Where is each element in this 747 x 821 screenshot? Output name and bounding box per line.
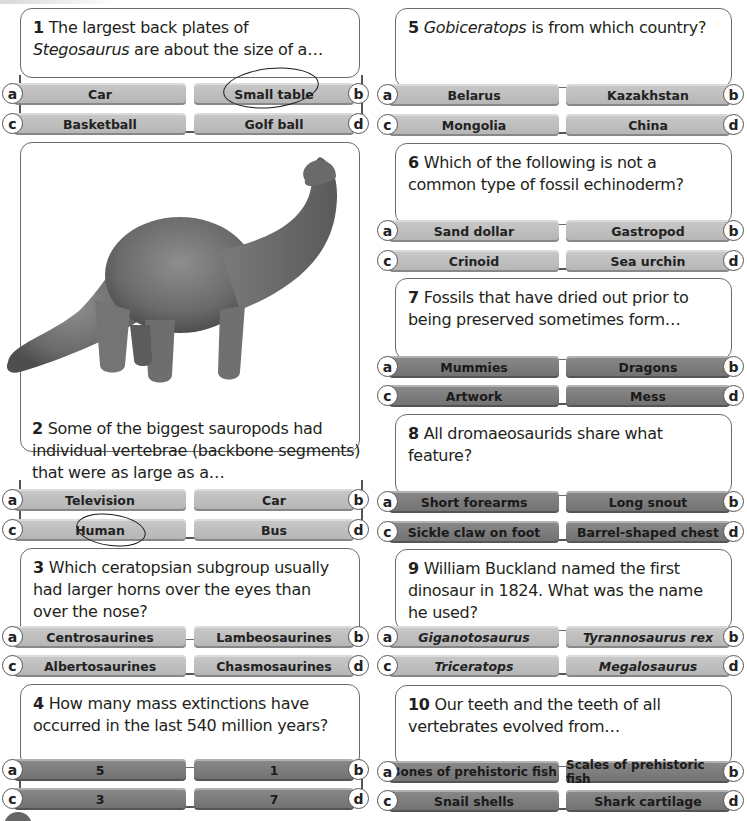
letter-a-badge: a [377, 761, 398, 782]
letter-d-badge: d [348, 113, 369, 134]
answer-d-button[interactable]: Chasmosaurines [194, 655, 354, 677]
letter-d-badge: d [723, 114, 744, 135]
answer-c-button[interactable]: Mongolia [389, 114, 559, 136]
answer-b-button[interactable]: Tyrannosaurus rex [566, 626, 730, 648]
answer-d-button[interactable]: Shark cartilage [566, 790, 730, 812]
answer-b-button[interactable]: Dragons [566, 356, 730, 378]
letter-b-badge: b [348, 759, 369, 780]
answer-b-button[interactable]: Car [194, 489, 354, 511]
letter-c-badge: c [2, 113, 23, 134]
letter-c-badge: c [377, 521, 398, 542]
letter-a-badge: a [2, 83, 23, 104]
answer-b-button[interactable]: Lambeosaurines [194, 626, 354, 648]
answer-b-button[interactable]: 1 [194, 759, 354, 781]
letter-c-badge: c [2, 655, 23, 676]
letter-a-badge: a [377, 84, 398, 105]
answer-c-button[interactable]: Human [14, 519, 186, 541]
answer-b-button[interactable]: Long snout [566, 491, 730, 513]
letter-b-badge: b [348, 83, 369, 104]
letter-c-badge: c [377, 114, 398, 135]
answer-d-button[interactable]: China [566, 114, 730, 136]
connector [186, 537, 194, 539]
letter-c-badge: c [377, 385, 398, 406]
answer-d-button[interactable]: Sea urchin [566, 250, 730, 272]
question-text-2: 2 Some of the biggest sauropods had indi… [32, 418, 362, 484]
letter-d-badge: d [723, 790, 744, 811]
sauropod-illustration [0, 150, 360, 410]
letter-a-badge: a [377, 356, 398, 377]
answer-b-button[interactable]: Scales of prehistoric fish [566, 761, 730, 783]
answer-c-button[interactable]: Crinoid [389, 250, 559, 272]
letter-b-badge: b [348, 489, 369, 510]
question-text: 9 William Buckland named the first dinos… [408, 558, 719, 624]
answer-d-button[interactable]: Mess [566, 385, 730, 407]
answer-b-button[interactable]: Kazakhstan [566, 84, 730, 106]
connector [559, 132, 566, 134]
answer-c-button[interactable]: Artwork [389, 385, 559, 407]
letter-b-badge: b [348, 626, 369, 647]
connector [559, 403, 566, 405]
answer-a-button[interactable]: Sand dollar [389, 220, 559, 242]
answer-a-button[interactable]: 5 [14, 759, 186, 781]
answer-a-button[interactable]: Centrosaurines [14, 626, 186, 648]
question-text: 6 Which of the following is not a common… [408, 152, 719, 196]
question-text: 5 Gobiceratops is from which country? [408, 17, 719, 39]
answer-c-button[interactable]: Albertosaurines [14, 655, 186, 677]
connector [559, 808, 566, 810]
answer-a-button[interactable]: Car [14, 83, 186, 105]
letter-b-badge: b [723, 626, 744, 647]
connector [186, 131, 194, 133]
answer-d-button[interactable]: Bus [194, 519, 354, 541]
answer-d-button[interactable]: Barrel-shaped chest [566, 521, 730, 543]
letter-d-badge: d [348, 519, 369, 540]
answer-c-button[interactable]: 3 [14, 788, 186, 810]
letter-d-badge: d [723, 250, 744, 271]
connector [559, 673, 566, 675]
answer-b-button[interactable]: Small table [194, 83, 354, 105]
answer-d-button[interactable]: Golf ball [194, 113, 354, 135]
letter-c-badge: c [377, 250, 398, 271]
answer-c-button[interactable]: Basketball [14, 113, 186, 135]
letter-b-badge: b [723, 761, 744, 782]
answer-a-button[interactable]: Giganotosaurus [389, 626, 559, 648]
answer-d-button[interactable]: Megalosaurus [566, 655, 730, 677]
connector [559, 539, 566, 541]
question-card-6: 6 Which of the following is not a common… [395, 143, 732, 225]
answer-a-button[interactable]: Short forearms [389, 491, 559, 513]
letter-c-badge: c [2, 519, 23, 540]
question-card-9: 9 William Buckland named the first dinos… [395, 549, 732, 631]
answer-a-button[interactable]: Bones of prehistoric fish [389, 761, 559, 783]
answer-c-button[interactable]: Snail shells [389, 790, 559, 812]
question-card-7: 7 Fossils that have dried out prior to b… [395, 278, 732, 360]
letter-a-badge: a [2, 626, 23, 647]
letter-c-badge: c [377, 655, 398, 676]
answer-b-button[interactable]: Gastropod [566, 220, 730, 242]
letter-b-badge: b [723, 84, 744, 105]
question-card-4: 4 How many mass extinctions have occurre… [20, 684, 360, 768]
question-text: 8 All dromaeosaurids share what feature? [408, 423, 719, 467]
page-top-strip [0, 0, 120, 4]
letter-d-badge: d [723, 521, 744, 542]
question-card-1: 1 The largest back plates of Stegosaurus… [20, 8, 360, 78]
connector [186, 673, 194, 675]
letter-a-badge: a [377, 220, 398, 241]
letter-a-badge: a [377, 491, 398, 512]
answer-c-button[interactable]: Sickle claw on foot [389, 521, 559, 543]
question-text: 7 Fossils that have dried out prior to b… [408, 287, 719, 331]
answer-d-button[interactable]: 7 [194, 788, 354, 810]
answer-c-button[interactable]: Triceratops [389, 655, 559, 677]
connector [559, 268, 566, 270]
letter-a-badge: a [2, 759, 23, 780]
question-text: 10 Our teeth and the teeth of all verteb… [408, 694, 719, 738]
question-text: 4 How many mass extinctions have occurre… [33, 693, 347, 737]
letter-d-badge: d [723, 385, 744, 406]
letter-d-badge: d [348, 655, 369, 676]
letter-c-badge: c [377, 790, 398, 811]
answer-a-button[interactable]: Mummies [389, 356, 559, 378]
question-card-8: 8 All dromaeosaurids share what feature? [395, 414, 732, 496]
answer-a-button[interactable]: Belarus [389, 84, 559, 106]
answer-a-button[interactable]: Television [14, 489, 186, 511]
question-text: 1 The largest back plates of Stegosaurus… [33, 17, 347, 61]
question-card-5: 5 Gobiceratops is from which country? [395, 8, 732, 88]
letter-d-badge: d [348, 788, 369, 809]
